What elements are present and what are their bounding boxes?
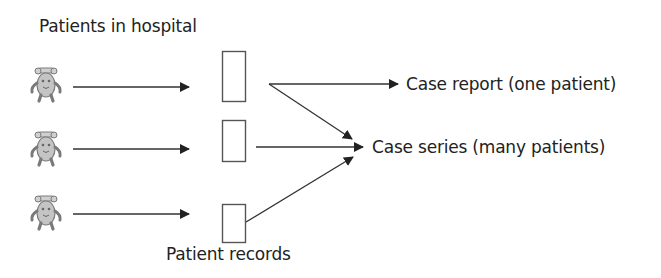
patient-record-box-1: [223, 52, 246, 102]
patient-records-label: Patient records: [166, 244, 291, 264]
case-series-label: Case series (many patients): [372, 137, 605, 157]
patient-bear-icon: [32, 196, 60, 229]
patient-bear-icon: [32, 68, 60, 101]
patient-record-box-2: [223, 121, 246, 162]
patient-record-box-3: [223, 205, 246, 243]
arrow-record3-to-case-series: [246, 157, 353, 222]
case-report-label: Case report (one patient): [406, 74, 616, 94]
patient-bear-icon: [32, 132, 60, 165]
arrow-record1-to-case-series: [269, 84, 352, 139]
patients-in-hospital-label: Patients in hospital: [39, 16, 197, 36]
